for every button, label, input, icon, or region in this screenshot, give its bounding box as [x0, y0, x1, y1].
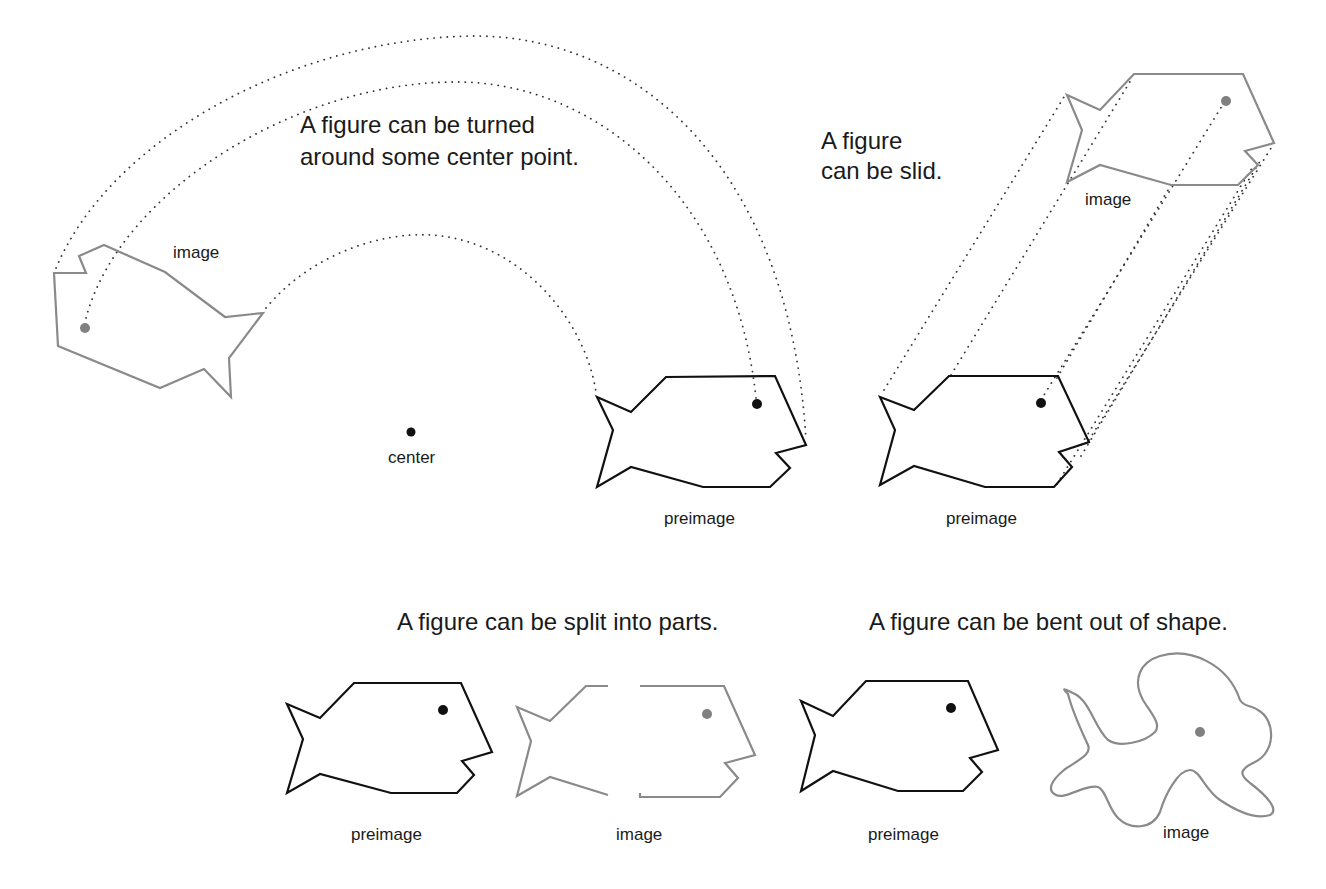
split-panel: A figure can be split into parts. preima…	[287, 608, 755, 844]
rotation-preimage-fish	[597, 376, 806, 487]
slide-image-fish	[1067, 74, 1274, 185]
slide-image-label: image	[1085, 190, 1131, 209]
rotated-image-fish	[54, 245, 263, 397]
slide-preimage-fish	[880, 376, 1089, 487]
slide-line-back	[951, 80, 1131, 375]
bend-preimage-eye	[946, 703, 956, 713]
bend-caption: A figure can be bent out of shape.	[869, 608, 1228, 635]
rotation-caption-line1: A figure can be turned	[300, 111, 535, 138]
bend-panel: A figure can be bent out of shape. preim…	[801, 608, 1273, 844]
center-point	[407, 428, 416, 437]
slide-line-tail	[884, 97, 1064, 390]
split-image-eye	[702, 709, 712, 719]
transformations-diagram: A figure can be turned around some cente…	[0, 0, 1326, 889]
center-label: center	[388, 448, 436, 467]
bend-image-eye	[1195, 727, 1205, 737]
split-image-head-part	[640, 686, 755, 797]
slide-preimage-eye	[1036, 398, 1046, 408]
split-preimage-fish	[287, 683, 492, 793]
slide-caption-line1: A figure	[821, 127, 902, 154]
rotation-preimage-eye	[752, 399, 762, 409]
split-preimage-label: preimage	[351, 825, 422, 844]
split-image-tail-part	[517, 686, 608, 796]
rotated-image-eye	[80, 323, 90, 333]
rotation-preimage-label: preimage	[664, 509, 735, 528]
split-image-label: image	[616, 825, 662, 844]
rotation-arc-outer	[56, 36, 806, 440]
slide-image-eye	[1221, 96, 1231, 106]
slide-preimage-label: preimage	[946, 509, 1017, 528]
bend-image-label: image	[1163, 823, 1209, 842]
rotation-arc-inner	[266, 235, 596, 392]
rotation-panel: A figure can be turned around some cente…	[54, 36, 806, 528]
bend-preimage-label: preimage	[868, 825, 939, 844]
bend-image-blob	[1051, 654, 1273, 827]
slide-caption-line2: can be slid.	[821, 157, 942, 184]
slide-line-head	[1057, 185, 1171, 378]
split-preimage-eye	[438, 705, 448, 715]
bend-preimage-fish	[801, 681, 998, 791]
slide-panel: A figure can be slid. image preimage	[821, 74, 1274, 528]
rotation-caption-line2: around some center point.	[300, 143, 579, 170]
rotation-image-label: image	[173, 243, 219, 262]
split-caption: A figure can be split into parts.	[397, 608, 719, 635]
